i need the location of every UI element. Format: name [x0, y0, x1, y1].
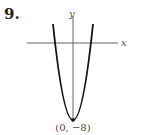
- parabola-graph: x y (0, −8): [0, 0, 141, 135]
- y-axis-label: y: [68, 8, 75, 19]
- x-axis-label: x: [121, 37, 127, 48]
- vertex-label: (0, −8): [55, 122, 90, 133]
